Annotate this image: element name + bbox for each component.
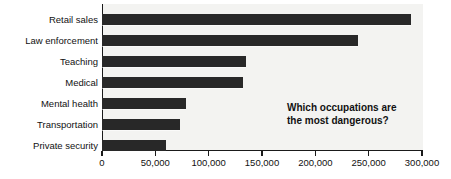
x-tick-label: 150,000 [245, 157, 279, 169]
category-label-teaching: Teaching [0, 56, 98, 67]
bar-medical [102, 77, 243, 88]
x-tick-mark [368, 151, 370, 156]
chart-annotation: Which occupations are the most dangerous… [287, 102, 396, 127]
x-tick-label: 200,000 [298, 157, 332, 169]
bar-retail-sales [102, 14, 411, 25]
bar-fill [102, 98, 186, 109]
bar-fill [102, 56, 246, 67]
bar-private-security [102, 140, 166, 151]
category-label-law-enforcement: Law enforcement [0, 35, 98, 46]
category-axis-labels: Retail salesLaw enforcementTeachingMedic… [0, 0, 98, 151]
x-tick-mark [155, 151, 157, 156]
bar-fill [102, 140, 166, 151]
bar-teaching [102, 56, 246, 67]
category-label-medical: Medical [0, 77, 98, 88]
annotation-line-1: Which occupations are [287, 102, 396, 115]
x-tick-mark [421, 151, 423, 156]
x-tick-mark [208, 151, 210, 156]
x-tick-mark [261, 151, 263, 156]
bar-fill [102, 77, 243, 88]
category-label-retail-sales: Retail sales [0, 14, 98, 25]
annotation-line-2: the most dangerous? [287, 115, 396, 128]
x-tick-mark [101, 151, 103, 156]
bar-mental-health [102, 98, 186, 109]
x-tick-label: 0 [99, 157, 104, 169]
x-tick-label: 100,000 [191, 157, 225, 169]
category-label-private-security: Private security [0, 140, 98, 151]
x-tick-label: 250,000 [351, 157, 385, 169]
x-tick-label: 300,000 [405, 157, 439, 169]
bar-transportation [102, 119, 180, 130]
bar-fill [102, 119, 180, 130]
bar-chart: Retail salesLaw enforcementTeachingMedic… [0, 0, 451, 179]
bar-fill [102, 35, 358, 46]
bar-fill [102, 14, 411, 25]
category-label-mental-health: Mental health [0, 98, 98, 109]
bar-law-enforcement [102, 35, 358, 46]
category-label-transportation: Transportation [0, 119, 98, 130]
x-tick-label: 50,000 [141, 157, 170, 169]
x-tick-mark [315, 151, 317, 156]
